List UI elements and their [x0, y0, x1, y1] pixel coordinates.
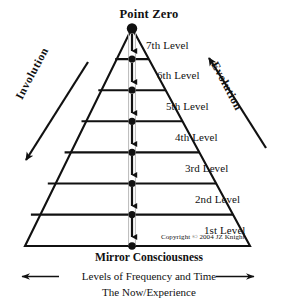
node-level-5 — [128, 118, 135, 125]
pyramid-diagram: Point Zero 7th Level 6th Level 5th Level… — [0, 0, 298, 304]
node-level-6 — [128, 87, 135, 94]
axis-label: Levels of Frequency and Time — [0, 271, 298, 282]
node-level-4 — [128, 149, 135, 156]
node-level-7 — [128, 56, 135, 63]
sub-axis-label: The Now/Experience — [0, 287, 298, 298]
level-label-6: 6th Level — [157, 70, 200, 81]
level-label-4: 4th Level — [175, 132, 218, 143]
level-label-2: 2nd Level — [195, 194, 240, 205]
apex-node — [127, 23, 137, 33]
apex-label: Point Zero — [0, 8, 298, 21]
node-level-2 — [128, 211, 135, 218]
level-label-5: 5th Level — [166, 101, 209, 112]
level-label-3: 3rd Level — [185, 163, 228, 174]
level-label-7: 7th Level — [146, 40, 189, 51]
copyright-notice: Copyright © 2004 JZ Knight — [161, 234, 245, 241]
node-level-3 — [128, 180, 135, 187]
base-label: Mirror Consciousness — [0, 252, 298, 264]
node-base — [128, 242, 136, 250]
